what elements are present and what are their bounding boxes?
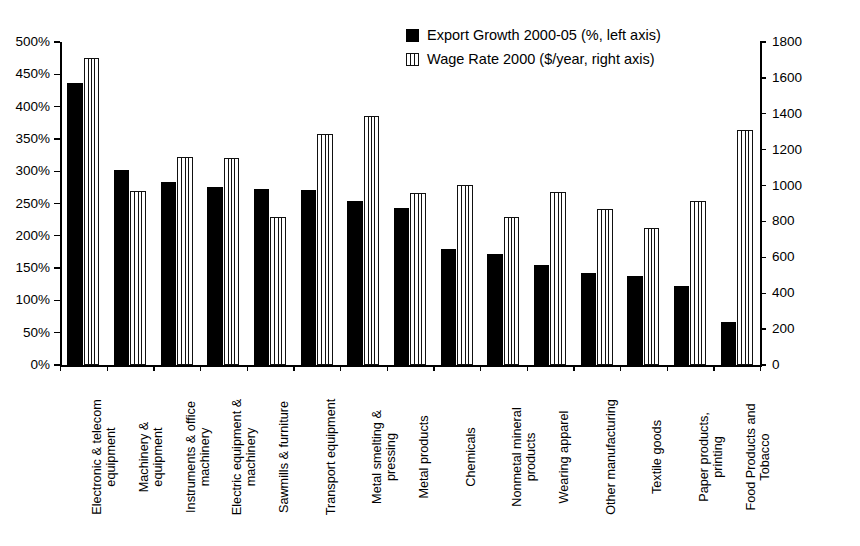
right-tick-label-1600: 1600 <box>772 71 824 85</box>
right-tick-label-600: 600 <box>772 250 824 264</box>
bar-export-growth <box>347 201 363 365</box>
legend-item-export-growth: Export Growth 2000-05 (%, left axis) <box>406 28 661 43</box>
right-tick-200 <box>760 328 766 329</box>
left-tick-label-100: 100% <box>2 293 50 307</box>
right-axis-line <box>760 42 762 365</box>
left-tick-label-0: 0% <box>2 358 50 372</box>
left-tick-label-500: 500% <box>2 35 50 49</box>
category-tick <box>60 365 61 371</box>
bar-export-growth <box>534 265 550 365</box>
bar-wage-rate <box>270 217 286 365</box>
category-label: Paper products, printing <box>667 372 714 544</box>
bar-group <box>527 42 574 365</box>
bar-group <box>713 42 760 365</box>
bar-group <box>433 42 480 365</box>
legend-item-wage-rate: Wage Rate 2000 ($/year, right axis) <box>406 52 661 67</box>
plot-area <box>60 42 760 365</box>
bar-wage-rate <box>550 192 566 365</box>
bar-group <box>387 42 434 365</box>
category-tick <box>667 365 668 371</box>
category-label-text: Sawmills & furniture <box>277 372 291 542</box>
category-label-text: Metal products <box>417 372 431 542</box>
right-tick-1600 <box>760 77 766 78</box>
bar-wage-rate <box>84 58 100 365</box>
bar-export-growth <box>161 182 177 365</box>
bar-export-growth <box>441 249 457 365</box>
category-axis-line <box>60 365 762 367</box>
bar-wage-rate <box>457 185 473 365</box>
category-tick <box>107 365 108 371</box>
category-label-text: Transport equipment <box>324 372 338 542</box>
solid-black-swatch-icon <box>406 29 419 42</box>
bar-export-growth <box>721 322 737 365</box>
bar-group <box>620 42 667 365</box>
category-label: Nonmetal mineral products <box>480 372 527 544</box>
bar-export-growth <box>254 189 270 365</box>
right-tick-label-400: 400 <box>772 286 824 300</box>
category-tick <box>387 365 388 371</box>
bar-group <box>247 42 294 365</box>
left-tick-label-350: 350% <box>2 132 50 146</box>
category-label: Electronic & telecom equipment <box>60 372 107 544</box>
bar-group <box>153 42 200 365</box>
bar-wage-rate <box>690 201 706 365</box>
bar-wage-rate <box>737 130 753 365</box>
right-tick-400 <box>760 293 766 294</box>
bar-export-growth <box>581 273 597 365</box>
category-label: Instruments & office machinery <box>153 372 200 544</box>
category-label: Chemicals <box>433 372 480 544</box>
right-tick-800 <box>760 221 766 222</box>
category-label: Food Products and Tobacco <box>713 372 760 544</box>
category-label: Metal products <box>387 372 434 544</box>
category-tick <box>713 365 714 371</box>
category-label-text: Other manufacturing <box>604 372 618 542</box>
right-tick-label-200: 200 <box>772 322 824 336</box>
category-label-text: Textile goods <box>650 372 664 542</box>
left-tick-label-150: 150% <box>2 261 50 275</box>
category-tick <box>573 365 574 371</box>
category-label: Wearing apparel <box>527 372 574 544</box>
left-tick-label-450: 450% <box>2 67 50 81</box>
bar-chart: 0%50%100%150%200%250%300%350%400%450%500… <box>0 0 860 546</box>
category-tick <box>247 365 248 371</box>
bar-wage-rate <box>644 228 660 365</box>
right-tick-1200 <box>760 149 766 150</box>
right-tick-600 <box>760 257 766 258</box>
category-label: Textile goods <box>620 372 667 544</box>
left-tick-label-50: 50% <box>2 326 50 340</box>
bar-export-growth <box>207 187 223 365</box>
right-tick-1000 <box>760 185 766 186</box>
bar-group <box>60 42 107 365</box>
bar-export-growth <box>301 190 317 365</box>
category-tick <box>760 365 761 371</box>
category-tick <box>153 365 154 371</box>
bar-group <box>293 42 340 365</box>
category-label: Electric equipment & machinery <box>200 372 247 544</box>
category-tick <box>620 365 621 371</box>
category-tick <box>200 365 201 371</box>
category-tick <box>527 365 528 371</box>
category-label-text: Chemicals <box>464 372 478 542</box>
left-tick-label-200: 200% <box>2 229 50 243</box>
left-tick-label-300: 300% <box>2 164 50 178</box>
category-label-text: Wearing apparel <box>557 372 571 542</box>
bar-wage-rate <box>410 193 426 365</box>
right-tick-label-1400: 1400 <box>772 107 824 121</box>
category-label: Transport equipment <box>293 372 340 544</box>
category-labels: Electronic & telecom equipmentMachinery … <box>60 372 760 546</box>
bar-export-growth <box>394 208 410 365</box>
vertical-hatch-swatch-icon <box>406 53 419 66</box>
bar-group <box>340 42 387 365</box>
left-tick-label-250: 250% <box>2 197 50 211</box>
bar-group <box>200 42 247 365</box>
bar-wage-rate <box>177 157 193 365</box>
bar-group <box>480 42 527 365</box>
left-tick-label-400: 400% <box>2 100 50 114</box>
bar-group <box>107 42 154 365</box>
right-axis-cap <box>760 41 766 43</box>
bar-wage-rate <box>504 217 520 365</box>
category-label: Machinery & equipment <box>107 372 154 544</box>
bar-wage-rate <box>224 158 240 365</box>
category-tick <box>480 365 481 371</box>
category-label: Sawmills & furniture <box>247 372 294 544</box>
